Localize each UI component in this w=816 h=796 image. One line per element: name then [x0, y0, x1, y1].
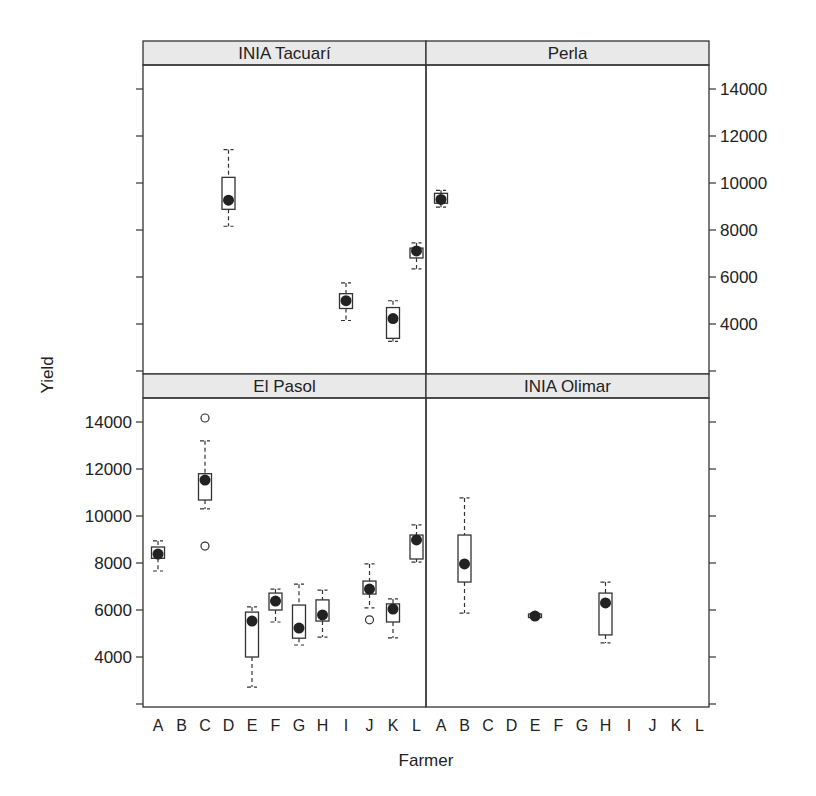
median-dot: [153, 549, 164, 560]
x-tick-label: B: [176, 717, 187, 734]
x-tick-label: I: [627, 717, 631, 734]
x-tick-label: H: [600, 717, 612, 734]
panels-layer: INIA TacuaríPerlaEl PasolINIA Olimar: [143, 41, 709, 707]
x-tick-label: F: [271, 717, 281, 734]
y-tick-label-left: 6000: [94, 601, 132, 620]
x-tick-label: G: [293, 717, 305, 734]
panel-inia-tacuar-: INIA Tacuarí: [143, 41, 426, 374]
y-tick-label-right: 14000: [720, 80, 767, 99]
x-tick-label: J: [649, 717, 657, 734]
median-dot: [388, 604, 399, 615]
box-j: [363, 564, 376, 624]
box-l: [410, 243, 423, 269]
panel-inia-olimar: INIA Olimar: [426, 374, 709, 707]
median-dot: [317, 609, 328, 620]
box-g: [293, 584, 306, 645]
y-tick-label-left: 14000: [85, 413, 132, 432]
x-tick-label: L: [695, 717, 704, 734]
panel-el-pasol: El Pasol: [143, 374, 426, 707]
box-i: [340, 283, 353, 321]
x-tick-label: F: [554, 717, 564, 734]
median-dot: [341, 295, 352, 306]
panel-frame: [143, 398, 426, 707]
median-dot: [411, 534, 422, 545]
outlier-point: [201, 414, 209, 422]
x-tick-label: K: [671, 717, 682, 734]
x-tick-label: L: [412, 717, 421, 734]
y-tick-label-right: 10000: [720, 174, 767, 193]
y-tick-label-left: 4000: [94, 648, 132, 667]
x-tick-label: C: [199, 717, 211, 734]
x-tick-label: E: [247, 717, 258, 734]
boxplot-lattice-chart: INIA TacuaríPerlaEl PasolINIA Olimar 400…: [0, 0, 816, 796]
x-tick-label: D: [223, 717, 235, 734]
box-c: [199, 414, 212, 550]
x-tick-label: D: [506, 717, 518, 734]
box-a: [152, 541, 165, 571]
box-e: [529, 611, 542, 622]
box-k: [387, 301, 400, 342]
x-tick-label: G: [576, 717, 588, 734]
panel-title: Perla: [548, 44, 588, 63]
x-tick-label: E: [530, 717, 541, 734]
box-b: [458, 498, 471, 613]
y-tick-label-left: 12000: [85, 460, 132, 479]
box-f: [269, 589, 282, 622]
median-dot: [294, 623, 305, 634]
x-tick-label: A: [436, 717, 447, 734]
box-d: [222, 150, 235, 227]
panel-perla: Perla: [426, 41, 709, 374]
panel-title: INIA Olimar: [524, 377, 611, 396]
y-tick-label-left: 10000: [85, 507, 132, 526]
median-dot: [436, 194, 447, 205]
box-h: [599, 582, 612, 643]
median-dot: [247, 616, 258, 627]
x-tick-label: H: [317, 717, 329, 734]
y-tick-label-right: 12000: [720, 127, 767, 146]
y-tick-label-right: 4000: [720, 315, 758, 334]
panel-frame: [426, 65, 709, 374]
median-dot: [411, 245, 422, 256]
median-dot: [364, 584, 375, 595]
box-k: [387, 599, 400, 638]
x-axis-label: Farmer: [399, 751, 454, 770]
panel-frame: [143, 65, 426, 374]
outlier-point: [366, 616, 374, 624]
panel-title: INIA Tacuarí: [238, 44, 331, 63]
median-dot: [200, 475, 211, 486]
median-dot: [270, 596, 281, 607]
x-tick-label: J: [366, 717, 374, 734]
y-tick-label-left: 8000: [94, 554, 132, 573]
x-tick-label: B: [459, 717, 470, 734]
box-e: [246, 607, 259, 687]
x-tick-label: C: [482, 717, 494, 734]
panel-title: El Pasol: [253, 377, 315, 396]
x-tick-label: I: [344, 717, 348, 734]
median-dot: [388, 313, 399, 324]
box-l: [410, 525, 423, 562]
box-h: [316, 590, 329, 637]
x-tick-label: K: [388, 717, 399, 734]
outlier-point: [201, 542, 209, 550]
y-tick-label-right: 8000: [720, 221, 758, 240]
median-dot: [600, 597, 611, 608]
median-dot: [530, 611, 541, 622]
y-tick-label-right: 6000: [720, 268, 758, 287]
box-a: [435, 190, 448, 207]
y-axis-label: Yield: [38, 356, 57, 393]
median-dot: [223, 195, 234, 206]
x-tick-label: A: [153, 717, 164, 734]
median-dot: [459, 558, 470, 569]
